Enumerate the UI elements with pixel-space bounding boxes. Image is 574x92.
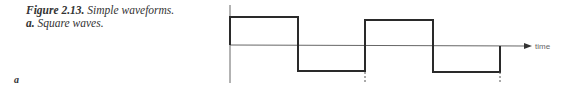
time-axis xyxy=(230,45,524,46)
square-wave-diagram: time xyxy=(0,0,574,92)
square-wave xyxy=(230,17,500,72)
arrow-icon xyxy=(524,43,532,49)
time-axis-label: time xyxy=(535,42,551,51)
